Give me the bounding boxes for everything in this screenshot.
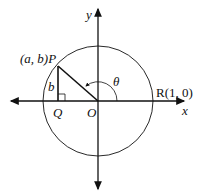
y-axis-label: y	[84, 7, 92, 22]
right-angle-mark	[58, 94, 65, 101]
x-axis-label: x	[181, 103, 188, 118]
point-r-label: R(1, 0)	[156, 85, 193, 100]
side-b-label: b	[48, 79, 55, 94]
unit-circle-diagram: y x (a, b)P b Q O θ R(1, 0)	[0, 0, 201, 193]
segment-op	[58, 66, 98, 101]
point-q-label: Q	[53, 105, 63, 120]
angle-theta-label: θ	[113, 74, 120, 89]
origin-label: O	[87, 105, 97, 120]
point-p-label: (a, b)P	[20, 51, 56, 66]
